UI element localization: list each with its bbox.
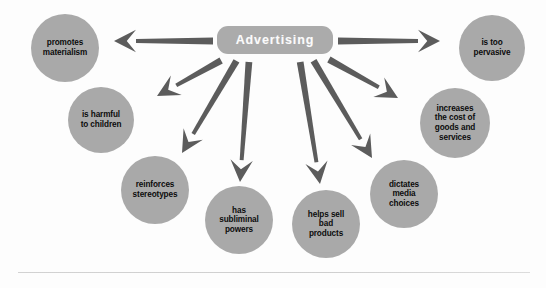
node-label: reinforcesstereotypes [127,180,184,199]
arrow-to-is-too-pervasive [338,30,440,52]
arrow-to-dictates-media-choices [311,59,372,158]
node-has-subliminal-powers[interactable]: hassubliminalpowers [205,186,273,254]
node-is-too-pervasive[interactable]: is toopervasive [459,15,525,81]
center-node-advertising[interactable]: Advertising [217,26,333,54]
center-node-label: Advertising [236,33,315,47]
node-label: is toopervasive [468,38,517,57]
node-helps-sell-bad-products[interactable]: helps sellbadproducts [292,190,360,258]
node-label: helps sellbadproducts [302,210,350,239]
node-increases-cost-of-goods[interactable]: increasesthe cost ofgoods andservices [420,88,490,158]
node-label: dictatesmediachoices [383,180,425,209]
diagram-canvas: Advertising promotesmaterialismis harmfu… [0,0,546,288]
bottom-divider [18,272,530,273]
arrow-to-is-harmful-to-children [157,58,223,96]
arrow-to-reinforces-stereotypes [182,59,239,153]
node-dictates-media-choices[interactable]: dictatesmediachoices [370,160,438,228]
node-reinforces-stereotypes[interactable]: reinforcesstereotypes [121,156,189,224]
arrow-to-promotes-materialism [114,30,213,52]
arrow-to-increases-cost [327,57,398,98]
node-label: hassubliminalpowers [213,206,265,235]
node-promotes-materialism[interactable]: promotesmaterialism [31,14,99,82]
node-label: increasesthe cost ofgoods andservices [429,104,482,142]
node-label: promotesmaterialism [37,38,93,57]
arrow-to-has-subliminal-powers [230,62,252,182]
node-label: is harmfulto children [75,110,128,129]
node-is-harmful-to-children[interactable]: is harmfulto children [68,87,134,153]
